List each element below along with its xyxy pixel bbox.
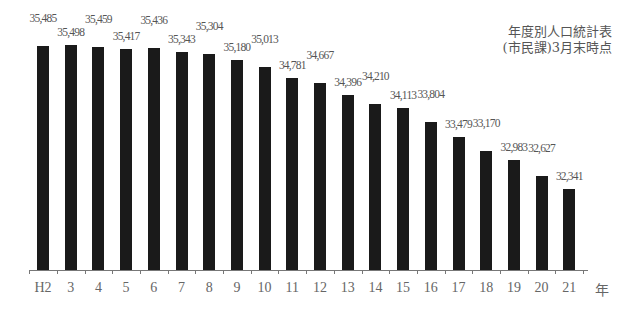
x-tick-label: 12 (313, 280, 327, 296)
bar-value-label: 34,113 (390, 89, 416, 101)
x-tick (445, 270, 446, 274)
bar-value-label: 35,180 (223, 41, 250, 53)
x-tick (195, 270, 196, 274)
x-axis (30, 270, 588, 271)
bar (176, 52, 188, 270)
bar-value-label: 32,983 (500, 141, 527, 153)
x-tick (583, 270, 584, 274)
chart-title: 年度別人口統計表 (503, 24, 612, 40)
bar (203, 54, 215, 270)
bar-value-label: 32,341 (556, 170, 583, 182)
x-tick-label: 17 (452, 280, 466, 296)
population-bar-chart: 年度別人口統計表 (市民課)3月末時点 年 35,485H235,498335,… (0, 0, 628, 311)
x-tick-label: 20 (535, 280, 549, 296)
chart-title-note: 年度別人口統計表 (市民課)3月末時点 (503, 24, 612, 56)
x-tick (472, 270, 473, 274)
x-tick (140, 270, 141, 274)
x-tick-label: 5 (123, 280, 130, 296)
bar (148, 48, 160, 270)
bar-value-label: 35,498 (57, 26, 84, 38)
x-tick (29, 270, 30, 274)
bar-value-label: 33,804 (417, 88, 444, 100)
bar (259, 67, 271, 270)
x-tick-label: 13 (341, 280, 355, 296)
x-tick-label: 18 (479, 280, 493, 296)
x-tick (85, 270, 86, 274)
bar (397, 108, 409, 270)
x-tick (500, 270, 501, 274)
x-tick-label: 9 (233, 280, 240, 296)
bar (480, 151, 492, 270)
x-tick (389, 270, 390, 274)
bar (425, 122, 437, 270)
x-tick (555, 270, 556, 274)
x-tick-label: 6 (150, 280, 157, 296)
x-tick (362, 270, 363, 274)
x-tick (278, 270, 279, 274)
bar (563, 189, 575, 270)
chart-subtitle: (市民課)3月末時点 (503, 40, 612, 56)
x-tick-label: 16 (424, 280, 438, 296)
bar-value-label: 34,667 (307, 49, 334, 61)
bar-value-label: 35,343 (168, 33, 195, 45)
bar-value-label: 35,485 (30, 12, 57, 24)
x-tick-label: 21 (562, 280, 576, 296)
x-tick-label: 11 (286, 280, 299, 296)
x-tick (223, 270, 224, 274)
x-tick (334, 270, 335, 274)
bar (37, 46, 49, 270)
bar (342, 95, 354, 270)
bar (120, 49, 132, 270)
bar-value-label: 34,781 (279, 59, 306, 71)
bar (508, 160, 520, 270)
x-tick-label: 8 (206, 280, 213, 296)
bar (314, 83, 326, 270)
bar (65, 45, 77, 270)
x-tick (112, 270, 113, 274)
x-tick (306, 270, 307, 274)
bar (369, 104, 381, 270)
x-tick (251, 270, 252, 274)
x-tick-label: 3 (67, 280, 74, 296)
x-tick-label: H2 (34, 280, 51, 296)
bar-value-label: 34,210 (362, 70, 389, 82)
bar (286, 78, 298, 270)
x-tick-label: 10 (258, 280, 272, 296)
bar-value-label: 35,304 (196, 20, 223, 32)
x-tick-label: 19 (507, 280, 521, 296)
bar-value-label: 32,627 (528, 142, 555, 154)
bar-value-label: 33,170 (473, 117, 500, 129)
x-tick-label: 15 (396, 280, 410, 296)
x-tick (57, 270, 58, 274)
bar (92, 47, 104, 270)
x-tick (417, 270, 418, 274)
bar-value-label: 35,459 (85, 13, 112, 25)
bar-value-label: 35,417 (113, 30, 140, 42)
bar (536, 176, 548, 270)
x-tick-label: 4 (95, 280, 102, 296)
x-tick (528, 270, 529, 274)
bar-value-label: 34,396 (334, 76, 361, 88)
x-tick (168, 270, 169, 274)
x-tick-label: 7 (178, 280, 185, 296)
bar-value-label: 35,013 (251, 33, 278, 45)
x-tick-label: 14 (368, 280, 382, 296)
bar (231, 60, 243, 270)
x-axis-unit: 年 (595, 279, 609, 299)
bar-value-label: 33,479 (445, 118, 472, 130)
bar-value-label: 35,436 (140, 14, 167, 26)
bar (453, 137, 465, 270)
